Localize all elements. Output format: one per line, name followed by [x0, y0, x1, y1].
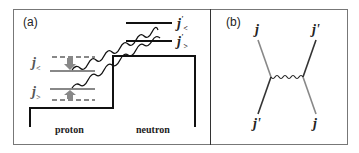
vertex-top-right: j': [312, 22, 320, 38]
vertex-top-left: j: [255, 22, 259, 38]
panel-b-diagram: [0, 0, 359, 153]
vertex-bottom-right: j: [313, 116, 317, 132]
vertex-bottom-left: j': [253, 116, 261, 132]
